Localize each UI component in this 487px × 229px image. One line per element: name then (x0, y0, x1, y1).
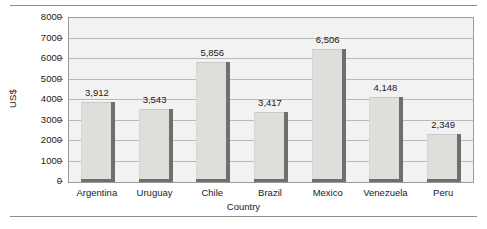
bar-shadow-right (284, 112, 288, 182)
bar-peru (427, 18, 457, 182)
bar-value-label: 4,148 (357, 83, 415, 93)
bar-shadow-bottom (139, 179, 173, 182)
bar-shadow-bottom (312, 179, 346, 182)
x-tick-label-peru: Peru (406, 188, 480, 198)
bar-value-label: 3,417 (241, 98, 299, 108)
y-axis-tick-marks (0, 17, 68, 183)
bar-body (312, 49, 342, 182)
y-tick-mark (57, 140, 63, 141)
top-divider-rule (10, 5, 477, 6)
x-axis-title: Country (0, 201, 487, 212)
bar-body (427, 134, 457, 182)
y-tick-mark (57, 161, 63, 162)
bar-shadow-bottom (427, 179, 461, 182)
bar-shadow-right (111, 102, 115, 182)
bar-argentina (81, 18, 111, 182)
y-tick-mark (57, 120, 63, 121)
bar-shadow-right (457, 134, 461, 182)
bar-value-label: 3,543 (126, 95, 184, 105)
bar-shadow-right (226, 62, 230, 182)
y-tick-mark (57, 38, 63, 39)
bar-value-label: 6,506 (299, 35, 357, 45)
bar-body (81, 102, 111, 182)
bar-body (369, 97, 399, 182)
bar-body (254, 112, 284, 182)
bar-shadow-right (342, 49, 346, 182)
bar-shadow-bottom (81, 179, 115, 182)
bar-value-label: 2,349 (414, 120, 472, 130)
bar-body (139, 109, 169, 182)
bar-shadow-bottom (196, 179, 230, 182)
bar-shadow-right (399, 97, 403, 182)
bar-shadow-bottom (254, 179, 288, 182)
y-tick-mark (57, 181, 63, 182)
bar-shadow-bottom (369, 179, 403, 182)
bar-chart-figure: US$ Country 0100020003000400050006000700… (0, 0, 487, 229)
bar-chile (196, 18, 226, 182)
bar-shadow-right (169, 109, 173, 182)
bar-value-label: 5,856 (183, 48, 241, 58)
y-tick-mark (57, 79, 63, 80)
bottom-divider-rule (10, 216, 477, 217)
bar-venezuela (369, 18, 399, 182)
y-tick-mark (57, 17, 63, 18)
y-tick-mark (57, 99, 63, 100)
y-tick-mark (57, 58, 63, 59)
bar-value-label: 3,912 (68, 88, 126, 98)
bar-body (196, 62, 226, 182)
